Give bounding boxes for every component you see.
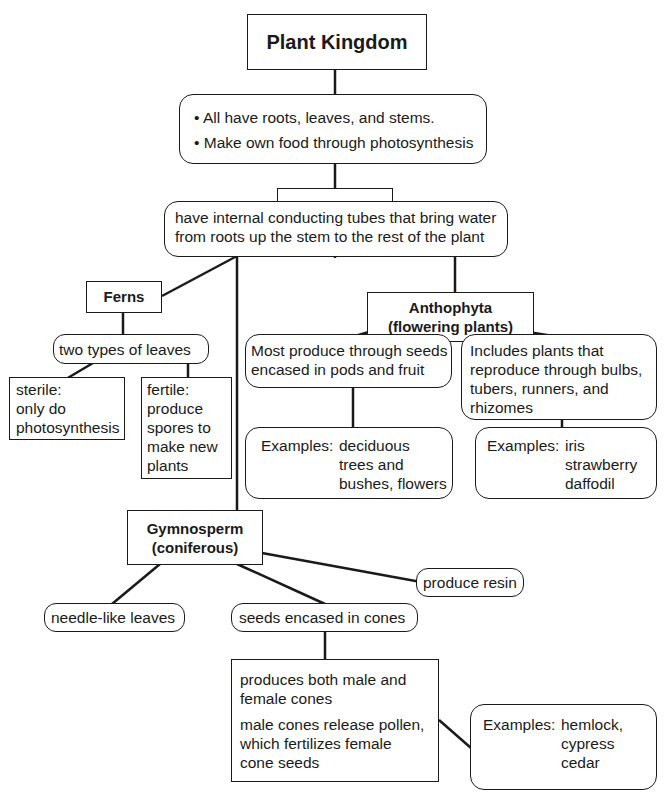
- seeds-example-3: bushes, flowers: [339, 474, 447, 493]
- seeds-line-1: Most produce through seeds: [251, 341, 451, 360]
- bulbs-example-1: iris: [565, 436, 637, 455]
- ferns-node: Ferns: [86, 281, 162, 313]
- seeds-line-2: encased in pods and fruit: [251, 360, 451, 379]
- anthophyta-seeds-node: Most produce through seeds encased in po…: [245, 334, 452, 388]
- vascular-description-line-1: have internal conducting tubes that brin…: [175, 208, 507, 227]
- gymnosperm-examples-label: Examples:: [483, 715, 561, 789]
- bulbs-line-2: reproduce through bulbs,: [470, 360, 656, 379]
- anthophyta-label: Anthophyta: [409, 298, 492, 317]
- seeds-in-cones-node: seeds encased in cones: [231, 603, 418, 632]
- fertile-line-1: fertile:: [147, 380, 231, 399]
- fertile-leaf-node: fertile: produce spores to make new plan…: [141, 377, 232, 479]
- bulbs-example-3: daffodil: [565, 474, 637, 493]
- needle-leaves-label: needle-like leaves: [51, 609, 175, 626]
- gymnosperm-example-2: cypress: [561, 734, 623, 753]
- gymnosperm-label: Gymnosperm: [147, 519, 244, 538]
- seeds-in-cones-label: seeds encased in cones: [239, 609, 405, 626]
- fertile-line-2: produce: [147, 399, 231, 418]
- gymnosperm-node: Gymnosperm (coniferous): [127, 510, 263, 565]
- seeds-example-1: deciduous: [339, 436, 447, 455]
- sterile-line-1: sterile:: [16, 380, 124, 399]
- ferns-leaves-label: two types of leaves: [59, 341, 191, 358]
- sterile-line-2: only do: [16, 399, 124, 418]
- fact-roots-leaves-stems: All have roots, leaves, and stems.: [194, 105, 486, 130]
- vascular-description-line-2: from roots up the stem to the rest of th…: [175, 227, 507, 246]
- needle-leaves-node: needle-like leaves: [44, 603, 185, 632]
- sterile-leaf-node: sterile: only do photosynthesis: [9, 377, 125, 440]
- cone-fact-1-line-1: produces both male and: [240, 670, 438, 689]
- produce-resin-node: produce resin: [416, 568, 524, 597]
- cone-facts-node: produces both male and female cones male…: [231, 659, 439, 782]
- anthophyta-bulbs-node: Includes plants that reproduce through b…: [461, 334, 657, 420]
- bulbs-line-4: rhizomes: [470, 398, 656, 417]
- seeds-examples-label: Examples:: [261, 436, 339, 498]
- cone-fact-2-line-3: cone seeds: [240, 753, 438, 772]
- ferns-leaves-node: two types of leaves: [53, 334, 209, 364]
- cone-fact-2-line-2: which fertilizes female: [240, 734, 438, 753]
- gymnosperm-example-3: cedar: [561, 753, 623, 772]
- plant-kingdom-label: Plant Kingdom: [266, 30, 407, 54]
- plant-kingdom-facts-node: All have roots, leaves, and stems. Make …: [179, 94, 487, 164]
- gymnosperm-sublabel: (coniferous): [152, 538, 239, 557]
- anthophyta-seeds-examples-node: Examples: deciduous trees and bushes, fl…: [245, 427, 453, 499]
- cone-fact-1-line-2: female cones: [240, 689, 438, 708]
- bulbs-line-3: tubers, runners, and: [470, 379, 656, 398]
- produce-resin-label: produce resin: [423, 574, 517, 591]
- anthophyta-bulbs-examples-node: Examples: iris strawberry daffodil: [475, 427, 657, 499]
- fertile-line-3: spores to: [147, 418, 231, 437]
- ferns-label: Ferns: [104, 287, 145, 307]
- fact-photosynthesis: Make own food through photosynthesis: [194, 130, 486, 155]
- cone-fact-2-line-1: male cones release pollen,: [240, 715, 438, 734]
- bulbs-line-1: Includes plants that: [470, 341, 656, 360]
- sterile-line-3: photosynthesis: [16, 418, 124, 437]
- vascular-description-node: have internal conducting tubes that brin…: [164, 201, 508, 257]
- gymnosperm-example-1: hemlock,: [561, 715, 623, 734]
- fertile-line-5: plants: [147, 456, 231, 475]
- fertile-line-4: make new: [147, 437, 231, 456]
- bulbs-example-2: strawberry: [565, 455, 637, 474]
- gymnosperm-examples-node: Examples: hemlock, cypress cedar: [470, 704, 657, 790]
- seeds-example-2: trees and: [339, 455, 447, 474]
- bulbs-examples-label: Examples:: [487, 436, 565, 498]
- plant-kingdom-node: Plant Kingdom: [247, 14, 427, 70]
